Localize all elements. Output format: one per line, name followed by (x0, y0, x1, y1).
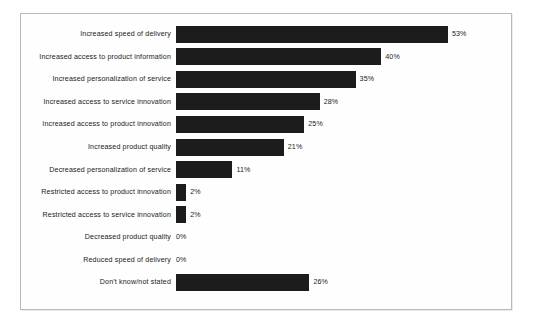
bar (176, 93, 320, 110)
value-label: 53% (452, 30, 467, 38)
category-label: Reduced speed of delivery (21, 256, 171, 264)
bar-track: 2% (176, 181, 201, 204)
value-label: 11% (236, 166, 250, 174)
bar-track: 25% (176, 113, 323, 136)
category-label: Increased personalization of service (21, 75, 171, 83)
bar-row: Increased access to service innovation28… (21, 91, 511, 114)
value-label: 0% (176, 233, 187, 241)
bar-row: Reduced speed of delivery0% (21, 249, 511, 272)
category-label: Restricted access to service innovation (21, 211, 171, 219)
bar-track: 35% (176, 68, 374, 91)
category-label: Decreased personalization of service (21, 166, 171, 174)
value-label: 2% (190, 211, 201, 219)
bar-row: Increased access to product innovation25… (21, 113, 511, 136)
bar-row: Increased speed of delivery53% (21, 23, 511, 46)
bar-track: 28% (176, 91, 338, 114)
category-label: Increased access to service innovation (21, 98, 171, 106)
bar (176, 184, 186, 201)
value-label: 35% (360, 75, 375, 83)
bar (176, 116, 304, 133)
value-label: 21% (288, 143, 303, 151)
value-label: 2% (190, 188, 201, 196)
bar-track: 53% (176, 23, 467, 46)
bar-row: Increased access to product information4… (21, 46, 511, 69)
bar-track: 11% (176, 158, 251, 181)
value-label: 26% (313, 278, 328, 286)
category-label: Restricted access to product innovation (21, 188, 171, 196)
bar (176, 161, 232, 178)
category-label: Increased speed of delivery (21, 30, 171, 38)
bar-row: Decreased product quality0% (21, 226, 511, 249)
category-label: Increased product quality (21, 143, 171, 151)
bar-track: 2% (176, 203, 201, 226)
bar (176, 206, 186, 223)
chart-figure: Increased speed of delivery53%Increased … (20, 13, 512, 310)
category-label: Don't know/not stated (21, 278, 171, 286)
bar-row: Increased personalization of service35% (21, 68, 511, 91)
bar (176, 274, 309, 291)
bar (176, 139, 284, 156)
category-label: Decreased product quality (21, 233, 171, 241)
bar-row: Restricted access to service innovation2… (21, 203, 511, 226)
bar-track: 26% (176, 271, 328, 294)
bar-track: 40% (176, 46, 400, 69)
bar (176, 26, 448, 43)
bar-track: 21% (176, 136, 302, 159)
bar-row: Decreased personalization of service11% (21, 158, 511, 181)
bar-track: 0% (176, 226, 187, 249)
bar-row: Don't know/not stated26% (21, 271, 511, 294)
plot-area: Increased speed of delivery53%Increased … (21, 14, 511, 309)
value-label: 25% (308, 120, 323, 128)
category-label: Increased access to product innovation (21, 120, 171, 128)
value-label: 40% (385, 53, 400, 61)
category-label: Increased access to product information (21, 53, 171, 61)
bar-row: Restricted access to product innovation2… (21, 181, 511, 204)
bar-track: 0% (176, 249, 187, 272)
bar (176, 71, 356, 88)
bar-row: Increased product quality21% (21, 136, 511, 159)
value-label: 0% (176, 256, 187, 264)
bar (176, 48, 381, 65)
value-label: 28% (324, 98, 339, 106)
